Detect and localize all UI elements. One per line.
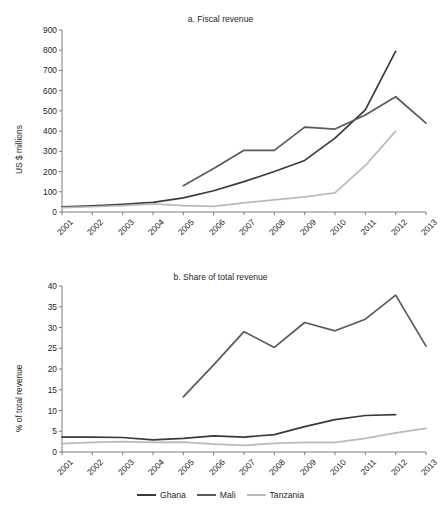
legend: GhanaMaliTanzania	[0, 490, 441, 500]
x-axis-tick-label: 2010	[313, 457, 348, 492]
y-axis-tick-label: 40	[35, 281, 57, 291]
x-axis-tick-label: 2012	[373, 217, 408, 252]
x-axis-tick-label: 2004	[131, 217, 166, 252]
y-axis-tick-label: 5	[35, 426, 57, 436]
x-axis-tick-label: 2008	[252, 457, 287, 492]
x-axis-tick-label: 2009	[282, 457, 317, 492]
y-axis-tick-label: 800	[35, 45, 57, 55]
x-axis-tick-label: 2006	[191, 217, 226, 252]
series-line-ghana	[62, 415, 396, 440]
panel-fiscal-revenue: a. Fiscal revenue US $ millions 01002003…	[0, 14, 441, 264]
legend-item-mali: Mali	[197, 490, 236, 500]
share-of-total-revenue-lines	[62, 286, 426, 452]
legend-swatch-tanzania	[247, 494, 266, 496]
panel-a-plot-area	[62, 30, 426, 212]
y-axis-tick-label: 900	[35, 25, 57, 35]
y-axis-tick-label: 700	[35, 65, 57, 75]
legend-swatch-ghana	[137, 494, 156, 496]
panel-b-plot-area	[62, 286, 426, 452]
y-axis-tick-label: 200	[35, 167, 57, 177]
cropped-header-text	[0, 0, 441, 5]
panel-b-y-axis-title: % of total revenue	[14, 364, 24, 432]
x-axis-tick-label: 2002	[70, 217, 105, 252]
y-axis-tick-label: 400	[35, 126, 57, 136]
y-axis-tick-label: 25	[35, 343, 57, 353]
x-axis-tick-label: 2009	[282, 217, 317, 252]
y-axis-tick-label: 35	[35, 302, 57, 312]
panel-b-title: b. Share of total revenue	[0, 272, 441, 282]
series-line-tanzania	[62, 131, 396, 207]
series-line-mali	[183, 295, 426, 397]
legend-item-tanzania: Tanzania	[247, 490, 304, 500]
x-axis-tick-label: 2013	[404, 217, 439, 252]
y-axis-tick-label: 15	[35, 385, 57, 395]
x-axis-tick-label: 2005	[161, 217, 196, 252]
legend-label: Ghana	[160, 490, 186, 500]
x-axis-tick-label: 2005	[161, 457, 196, 492]
x-axis-tick-label: 2003	[100, 217, 135, 252]
x-axis-tick-label: 2006	[191, 457, 226, 492]
series-line-mali	[183, 97, 426, 186]
y-axis-tick-label: 0	[35, 207, 57, 217]
x-axis-tick-label: 2008	[252, 217, 287, 252]
legend-label: Tanzania	[270, 490, 304, 500]
y-axis-tick-label: 0	[35, 447, 57, 457]
x-axis-tick-label: 2003	[100, 457, 135, 492]
y-axis-tick-label: 100	[35, 187, 57, 197]
legend-label: Mali	[220, 490, 236, 500]
y-axis-tick-label: 20	[35, 364, 57, 374]
x-axis-tick-label: 2004	[131, 457, 166, 492]
panel-a-y-axis-title: US $ millions	[14, 125, 24, 174]
y-axis-tick-label: 600	[35, 86, 57, 96]
fiscal-revenue-lines	[62, 30, 426, 212]
x-axis-tick-label: 2002	[70, 457, 105, 492]
x-axis-tick-label: 2007	[222, 457, 257, 492]
y-axis-tick-label: 500	[35, 106, 57, 116]
x-axis-tick-label: 2001	[40, 217, 75, 252]
x-axis-tick-label: 2013	[404, 457, 439, 492]
legend-item-ghana: Ghana	[137, 490, 186, 500]
x-axis-tick-label: 2007	[222, 217, 257, 252]
legend-swatch-mali	[197, 494, 216, 496]
x-axis-tick-label: 2010	[313, 217, 348, 252]
y-axis-tick-label: 30	[35, 323, 57, 333]
x-axis-tick-label: 2001	[40, 457, 75, 492]
x-axis-tick-label: 2011	[343, 457, 378, 492]
y-axis-tick-label: 300	[35, 146, 57, 156]
panel-share-of-total-revenue: b. Share of total revenue % of total rev…	[0, 272, 441, 487]
x-axis-tick-label: 2011	[343, 217, 378, 252]
panel-a-title: a. Fiscal revenue	[0, 14, 441, 24]
y-axis-tick-label: 10	[35, 406, 57, 416]
x-axis-tick-label: 2012	[373, 457, 408, 492]
chart-figure: a. Fiscal revenue US $ millions 01002003…	[0, 0, 441, 513]
